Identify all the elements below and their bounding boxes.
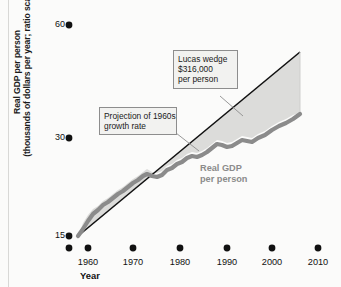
y-axis-tick-label-60: 60 <box>41 19 65 29</box>
x-axis-title: Year <box>70 270 110 281</box>
xtick-dot-origin <box>66 245 73 252</box>
projection-callout: Projection of 1960s growth rate <box>99 107 177 135</box>
y-axis-title-line1: Real GDP per person <box>12 30 23 114</box>
real-gdp-series-label-line2: per person <box>200 174 247 185</box>
ytick-dot-30 <box>66 135 73 142</box>
y-axis-title-line2: (thousands of dollars per year; ratio sc… <box>22 0 33 157</box>
projection-callout-line2: growth rate <box>104 121 172 131</box>
ytick-dot-15 <box>66 233 73 240</box>
x-axis-tick-label-2010: 2010 <box>298 257 338 267</box>
x-axis-tick-label-1960: 1960 <box>68 257 108 267</box>
lucas-wedge-callout-line1: Lucas wedge <box>178 54 233 64</box>
xtick-dot-1970 <box>130 245 137 252</box>
xtick-dot-2010 <box>315 245 322 252</box>
xtick-dot-1980 <box>177 245 184 252</box>
figure-container: Real GDP per person (thousands of dollar… <box>0 0 341 287</box>
lucas-wedge-callout: Lucas wedge $316,000 per person <box>173 50 238 89</box>
y-axis-tick-label-30: 30 <box>41 132 65 142</box>
x-axis-tick-label-2000: 2000 <box>252 257 292 267</box>
x-axis-tick-label-1980: 1980 <box>160 257 200 267</box>
lucas-wedge-callout-line3: per person <box>178 74 233 84</box>
x-axis-tick-label-1970: 1970 <box>113 257 153 267</box>
y-axis-title: Real GDP per person (thousands of dollar… <box>10 0 34 172</box>
lucas-wedge-callout-line2: $316,000 <box>178 64 233 74</box>
projection-callout-line1: Projection of 1960s <box>104 111 172 121</box>
real-gdp-series-label-line1: Real GDP <box>200 163 247 174</box>
x-axis-tick-label-1990: 1990 <box>207 257 247 267</box>
chart-plot-area <box>0 0 341 287</box>
real-gdp-series-label: Real GDP per person <box>200 163 247 186</box>
xtick-dot-1990 <box>224 245 231 252</box>
xtick-dot-2000 <box>269 245 276 252</box>
ytick-dot-60 <box>66 22 73 29</box>
y-axis-tick-label-15: 15 <box>41 230 65 240</box>
xtick-dot-1960 <box>85 245 92 252</box>
